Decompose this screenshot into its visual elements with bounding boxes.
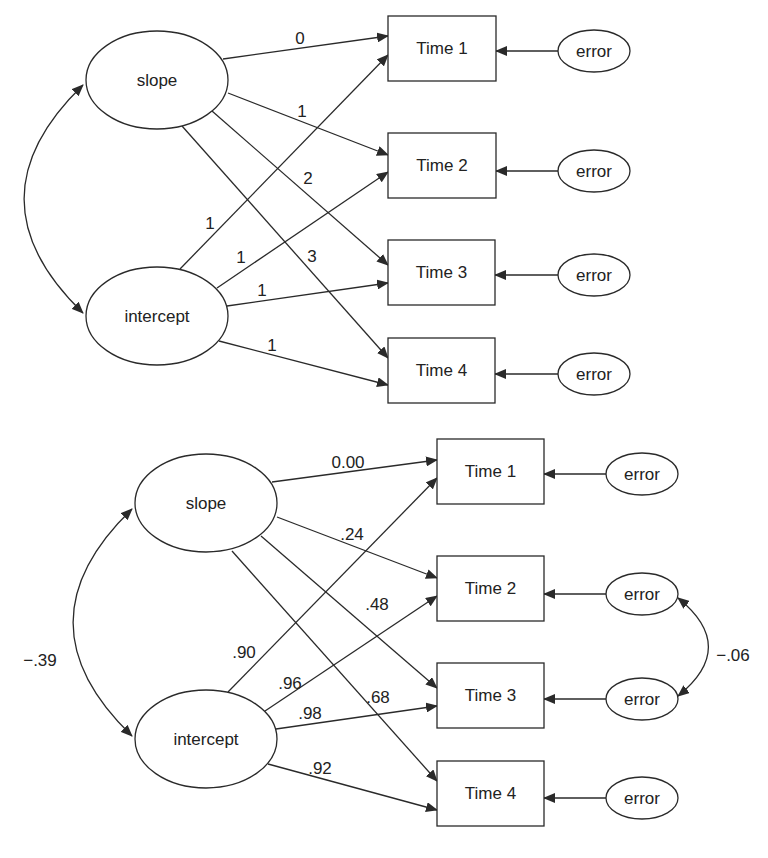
path-coefficient-label: 1 [205,214,214,233]
error-label: error [576,365,612,384]
path-arrow [219,341,388,385]
path-arrow [261,536,437,688]
path-coefficient-label: .92 [308,759,332,778]
observed-label: Time 2 [416,156,467,175]
error-label: error [624,690,660,709]
path-coefficient-label: .98 [298,704,322,723]
path-coefficient-label: .96 [278,674,302,693]
path-coefficient-label: 1 [267,336,276,355]
path-coefficient-label: 1 [236,248,245,267]
path-coefficient-label: .68 [366,688,390,707]
standardized-model: 0.00.24.48.68.90.96.98.92−.39−.06errorer… [23,439,750,826]
observed-label: Time 4 [416,361,467,380]
covariance-label: −.39 [23,651,57,670]
latent-label: intercept [173,730,238,749]
path-arrow [227,283,388,306]
path-coefficient-label: 3 [307,247,316,266]
error-label: error [624,789,660,808]
path-arrow [268,764,437,810]
error-label: error [576,42,612,61]
error-label: error [576,162,612,181]
covariance-arrow [678,598,708,696]
path-coefficient-label: 1 [257,281,266,300]
observed-label: Time 3 [465,686,516,705]
observed-label: Time 1 [465,462,516,481]
error-label: error [576,266,612,285]
unstandardized-model: 01231111errorerrorerrorerrorTime 1Time 2… [24,16,630,403]
covariance-label: −.06 [716,646,750,665]
path-coefficient-label: .90 [232,643,256,662]
observed-label: Time 3 [416,263,467,282]
covariance-arrow [73,509,132,736]
path-coefficient-label: 2 [303,169,312,188]
path-arrow [212,111,388,265]
covariance-arrow [24,85,83,313]
path-coefficient-label: .24 [340,525,364,544]
growth-model-diagram: 01231111errorerrorerrorerrorTime 1Time 2… [0,0,768,858]
latent-label: slope [137,71,178,90]
path-coefficient-label: 0.00 [331,453,364,472]
observed-label: Time 2 [465,579,516,598]
path-coefficient-label: 0 [295,29,304,48]
observed-label: Time 1 [416,39,467,58]
latent-label: slope [186,494,227,513]
latent-label: intercept [124,307,189,326]
observed-label: Time 4 [465,784,516,803]
path-arrow [223,36,388,59]
path-coefficient-label: .48 [365,595,389,614]
error-label: error [624,585,660,604]
path-coefficient-label: 1 [297,102,306,121]
error-label: error [624,465,660,484]
